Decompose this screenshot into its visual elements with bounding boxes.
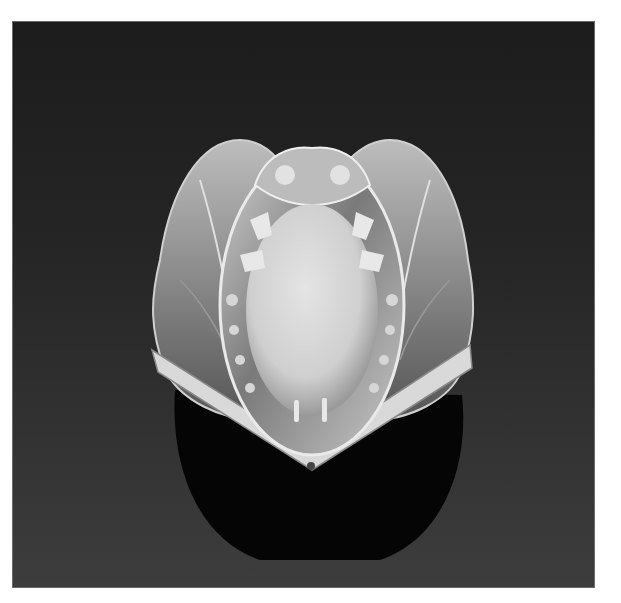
ring-photo bbox=[0, 0, 621, 603]
